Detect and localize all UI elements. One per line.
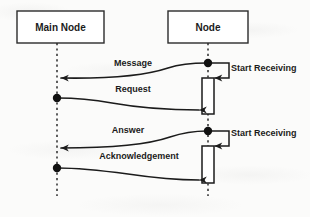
sequence-diagram-canvas: Main Node Node Message Start Receiving R…	[0, 0, 310, 217]
self-message-label-start-receiving-2: Start Receiving	[231, 128, 297, 138]
origin-dot-node-answer[interactable]	[204, 127, 212, 135]
origin-dot-main-node-request[interactable]	[53, 94, 61, 102]
participant-label-main-node: Main Node	[35, 22, 86, 33]
message-label-message: Message	[114, 58, 152, 68]
message-label-acknowledgement: Acknowledgement	[99, 151, 179, 161]
message-label-request: Request	[115, 84, 151, 94]
activation-bar-2[interactable]	[202, 146, 214, 183]
message-label-answer: Answer	[112, 125, 145, 135]
origin-dot-node-message[interactable]	[204, 59, 212, 67]
self-message-label-start-receiving-1: Start Receiving	[231, 63, 297, 73]
sequence-diagram: Main Node Node Message Start Receiving R…	[0, 0, 310, 217]
message-arrow-request[interactable]	[58, 98, 199, 110]
message-arrow-acknowledgement[interactable]	[58, 168, 199, 180]
activation-bar-1[interactable]	[202, 78, 214, 114]
origin-dot-main-node-acknowledgement[interactable]	[53, 164, 61, 172]
participant-label-node: Node	[196, 22, 221, 33]
